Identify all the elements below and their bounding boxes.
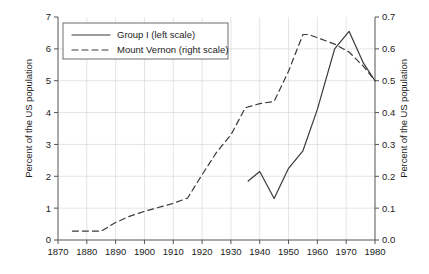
y-tick-label-right: 0.2 [382, 171, 395, 182]
y-tick-label-right: 0.5 [382, 75, 395, 86]
y-tick-label-right: 0.6 [382, 43, 395, 54]
x-tick-label: 1910 [163, 246, 184, 257]
x-tick-label: 1960 [307, 246, 328, 257]
chart-legend: Group I (left scale)Mount Vernon (right … [63, 23, 228, 59]
y-tick-label-left: 6 [46, 43, 51, 54]
y-tick-label-right: 0.7 [382, 11, 395, 22]
y-tick-label-left: 1 [46, 203, 51, 214]
y-tick-label-right: 0.0 [382, 234, 395, 245]
y-tick-label-left: 5 [46, 75, 51, 86]
y-tick-label-right: 0.4 [382, 107, 395, 118]
x-tick-label: 1900 [134, 246, 155, 257]
x-tick-label: 1950 [278, 246, 299, 257]
x-tick-label: 1920 [192, 246, 213, 257]
chart-figure: Percent of the US population Percent of … [0, 0, 429, 274]
x-tick-label: 1970 [336, 246, 357, 257]
series-line-group [248, 31, 375, 198]
y-tick-label-left: 3 [46, 139, 51, 150]
legend-label-1: Group I (left scale) [117, 29, 195, 40]
legend-label-2: Mount Vernon (right scale) [117, 44, 228, 55]
x-tick-label: 1880 [76, 246, 97, 257]
x-tick-label: 1930 [220, 246, 241, 257]
y-tick-label-right: 0.1 [382, 203, 395, 214]
plot-area: 1870188018901900191019201930194019501960… [0, 0, 429, 274]
y-tick-label-left: 2 [46, 171, 51, 182]
x-tick-label: 1890 [105, 246, 126, 257]
x-tick-label: 1870 [47, 246, 68, 257]
x-tick-label: 1940 [249, 246, 270, 257]
y-tick-label-left: 4 [46, 107, 51, 118]
y-tick-label-left: 7 [46, 11, 51, 22]
x-tick-label: 1980 [364, 246, 385, 257]
y-tick-label-right: 0.3 [382, 139, 395, 150]
data-series [72, 31, 375, 231]
series-line-mount [72, 35, 375, 232]
y-tick-label-left: 0 [46, 234, 51, 245]
